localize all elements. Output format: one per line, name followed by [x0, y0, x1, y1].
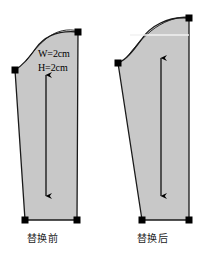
handle-bottom-right-before[interactable] [74, 217, 81, 224]
handle-shoulder-after[interactable] [115, 60, 122, 67]
handle-top-right-after[interactable] [186, 15, 193, 22]
height-label: H=2cm [38, 63, 68, 73]
width-label: W=2cm [38, 49, 70, 59]
caption-after: 替换后 [137, 234, 168, 244]
panel-after [115, 15, 193, 224]
handle-top-right-before[interactable] [75, 29, 82, 36]
pattern-comparison-figure [0, 0, 204, 260]
figure-canvas: W=2cm H=2cm 替换前 替换后 [0, 0, 204, 260]
handle-bottom-left-after[interactable] [139, 217, 146, 224]
handle-bottom-left-before[interactable] [22, 217, 29, 224]
shape-outline-after [118, 18, 189, 220]
handle-bottom-right-after[interactable] [186, 217, 193, 224]
caption-before: 替换前 [27, 234, 58, 244]
handle-shoulder-before[interactable] [12, 67, 19, 74]
